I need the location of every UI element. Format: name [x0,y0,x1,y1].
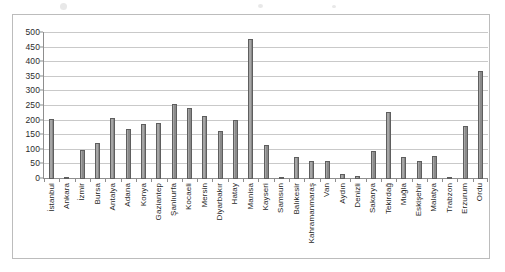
bar [172,104,177,179]
x-axis-label-cell: Denizli [350,183,365,253]
y-axis-tick-label: 500 [26,28,40,37]
bar-slot [182,32,197,179]
bar-slot [335,32,350,179]
x-axis-tick-mark [197,178,212,182]
bar [463,126,468,179]
x-axis-label-cell: Manisa [243,183,258,253]
x-axis-label-cell: Van [320,183,335,253]
chart-frame: 500450400350300250200150100500 İstanbulA… [12,14,490,259]
y-axis-tick-label: 150 [26,130,40,139]
bar [294,157,299,179]
bar [233,120,238,179]
x-axis-label-cell: Adana [121,183,136,253]
bar-slot [427,32,442,179]
bar [478,71,483,179]
x-axis-category-label: Ordu [476,183,484,201]
x-axis-category-label: Hatay [231,183,239,204]
x-axis-category-label: Eskişehir [415,183,423,216]
x-axis-tick-mark [212,178,227,182]
x-axis-label-cell: Malatya [427,183,442,253]
x-axis-tick-mark [396,178,411,182]
bar [187,108,192,179]
x-axis-category-label: İzmir [78,183,86,201]
bar [95,143,100,180]
bar-slot [197,32,212,179]
x-axis-tick-mark [442,178,457,182]
x-axis-label-cell: Eskişehir [412,183,427,253]
bar [309,161,314,179]
x-axis-category-label: Tekirdağ [385,183,393,214]
x-axis-category-label: İstanbul [48,183,56,212]
y-axis-tick-label: 100 [26,145,40,154]
bar [401,157,406,179]
y-axis-tick-label: 350 [26,72,40,81]
bar-slot [151,32,166,179]
bar-slot [274,32,289,179]
bar [386,112,391,179]
x-axis-category-label: Ankara [63,183,71,209]
x-axis-tick-mark [381,178,396,182]
x-axis-ticks [44,178,488,182]
bar-slot [105,32,120,179]
x-axis-tick-mark [90,178,105,182]
x-axis-category-label: Antalya [109,183,117,210]
bar-slot [121,32,136,179]
bar-series [44,32,488,179]
x-axis-label-cell: Şanlıurfa [167,183,182,253]
bar [141,124,146,179]
x-axis-tick-mark [44,178,59,182]
scan-speck [332,5,336,8]
x-axis-category-label: Trabzon [446,183,454,213]
bar [432,156,437,179]
bar [264,145,269,179]
bar-slot [258,32,273,179]
bar [110,118,115,179]
x-axis-tick-mark [427,178,442,182]
x-axis-label-cell: İstanbul [44,183,59,253]
x-axis-label-cell: Mersin [197,183,212,253]
x-axis-label-cell: Kahramanmaraş [304,183,319,253]
x-axis-category-label: Malatya [430,183,438,212]
x-axis-tick-mark [258,178,273,182]
x-axis-tick-mark [274,178,289,182]
x-axis-category-label: Kocaeli [185,183,193,210]
x-axis-label-cell: Muğla [396,183,411,253]
y-axis-tick-label: 450 [26,42,40,51]
bar-slot [90,32,105,179]
bar-slot [304,32,319,179]
x-axis-category-label: Aydın [339,183,347,204]
scan-speck [60,3,67,10]
x-axis-category-label: Van [323,183,331,197]
x-axis-category-label: Denizli [354,183,362,208]
bar [156,123,161,179]
bar-slot [473,32,488,179]
bar [202,116,207,179]
x-axis-label-cell: Samsun [274,183,289,253]
x-axis-label-cell: Antalya [105,183,120,253]
x-axis-category-label: Sakarya [369,183,377,213]
x-axis-tick-mark [182,178,197,182]
bar-slot [167,32,182,179]
y-axis-tick-label: 200 [26,115,40,124]
x-axis-category-label: Diyarbakır [216,183,224,220]
x-axis-tick-mark [350,178,365,182]
x-axis-tick-mark [121,178,136,182]
bar [417,161,422,179]
x-axis-tick-mark [105,178,120,182]
x-axis-label-cell: Bursa [90,183,105,253]
x-axis-category-label: Kayseri [262,183,270,210]
x-axis-label-cell: Hatay [228,183,243,253]
bar-slot [412,32,427,179]
x-axis-tick-mark [136,178,151,182]
x-axis-tick-mark [457,178,472,182]
x-axis-category-label: Balıkesir [293,183,301,215]
x-axis-label-cell: Diyarbakır [212,183,227,253]
x-axis-label-cell: Konya [136,183,151,253]
bar-slot [136,32,151,179]
bar [49,119,54,179]
x-axis-category-label: Adana [124,183,132,207]
bar-slot [44,32,59,179]
x-axis-category-label: Gaziantep [155,183,163,220]
x-axis-label-cell: Ankara [59,183,74,253]
x-axis-tick-mark [59,178,74,182]
